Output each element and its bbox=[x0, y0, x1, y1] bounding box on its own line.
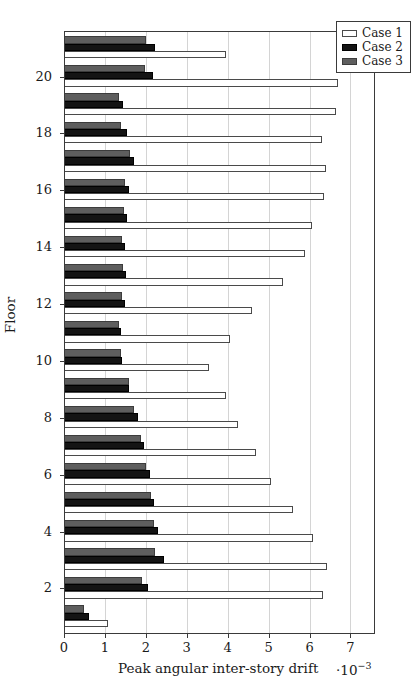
y-tick-mark-1 bbox=[60, 532, 64, 533]
legend-swatch-c1 bbox=[342, 30, 357, 37]
legend-item-case-3[interactable]: Case 3 bbox=[342, 54, 403, 68]
chart-legend: Case 1Case 2Case 3 bbox=[336, 21, 411, 73]
y-tick-mark-7 bbox=[60, 190, 64, 191]
chart-figure: 01234567 2468101214161820 Peak angular i… bbox=[0, 0, 418, 686]
x-tick-mark-0 bbox=[64, 634, 65, 638]
x-tick-mark-7 bbox=[350, 634, 351, 638]
x-tick-mark-4 bbox=[228, 634, 229, 638]
y-tick-label-12: 12 bbox=[26, 296, 52, 311]
x-tick-label-4: 4 bbox=[213, 640, 243, 655]
legend-swatch-c2 bbox=[342, 44, 357, 51]
legend-item-case-1[interactable]: Case 1 bbox=[342, 26, 403, 40]
x-tick-mark-6 bbox=[310, 634, 311, 638]
legend-item-case-2[interactable]: Case 2 bbox=[342, 40, 403, 54]
y-tick-label-4: 4 bbox=[26, 524, 52, 539]
y-tick-mark-3 bbox=[60, 418, 64, 419]
x-axis-exponent-power: −3 bbox=[357, 660, 371, 671]
legend-label: Case 1 bbox=[362, 26, 403, 40]
plot-frame bbox=[64, 31, 375, 634]
y-tick-label-14: 14 bbox=[26, 239, 52, 254]
x-tick-label-6: 6 bbox=[295, 640, 325, 655]
y-tick-mark-4 bbox=[60, 361, 64, 362]
x-tick-label-2: 2 bbox=[131, 640, 161, 655]
legend-swatch-c3 bbox=[342, 58, 357, 65]
x-tick-label-0: 0 bbox=[49, 640, 79, 655]
x-tick-mark-3 bbox=[187, 634, 188, 638]
y-tick-mark-6 bbox=[60, 247, 64, 248]
y-tick-label-8: 8 bbox=[26, 410, 52, 425]
x-axis-exponent-base: ·10 bbox=[336, 662, 357, 678]
x-tick-mark-1 bbox=[105, 634, 106, 638]
y-tick-mark-5 bbox=[60, 304, 64, 305]
x-tick-label-3: 3 bbox=[172, 640, 202, 655]
y-tick-label-16: 16 bbox=[26, 182, 52, 197]
legend-label: Case 3 bbox=[362, 54, 403, 68]
legend-label: Case 2 bbox=[362, 40, 403, 54]
y-tick-mark-0 bbox=[60, 588, 64, 589]
y-tick-mark-2 bbox=[60, 475, 64, 476]
x-axis-label: Peak angular inter-story drift bbox=[118, 660, 318, 676]
y-tick-label-20: 20 bbox=[26, 69, 52, 84]
x-tick-mark-2 bbox=[146, 634, 147, 638]
y-tick-label-6: 6 bbox=[26, 467, 52, 482]
x-tick-label-1: 1 bbox=[90, 640, 120, 655]
y-tick-mark-9 bbox=[60, 77, 64, 78]
plot-area bbox=[64, 31, 375, 634]
y-tick-label-10: 10 bbox=[26, 353, 52, 368]
y-axis-label: Floor bbox=[2, 297, 18, 333]
x-axis-exponent: ·10−3 bbox=[336, 660, 372, 678]
y-tick-label-18: 18 bbox=[26, 125, 52, 140]
y-tick-mark-8 bbox=[60, 133, 64, 134]
x-tick-label-5: 5 bbox=[254, 640, 284, 655]
x-tick-mark-5 bbox=[269, 634, 270, 638]
y-tick-label-2: 2 bbox=[26, 580, 52, 595]
x-tick-label-7: 7 bbox=[335, 640, 365, 655]
